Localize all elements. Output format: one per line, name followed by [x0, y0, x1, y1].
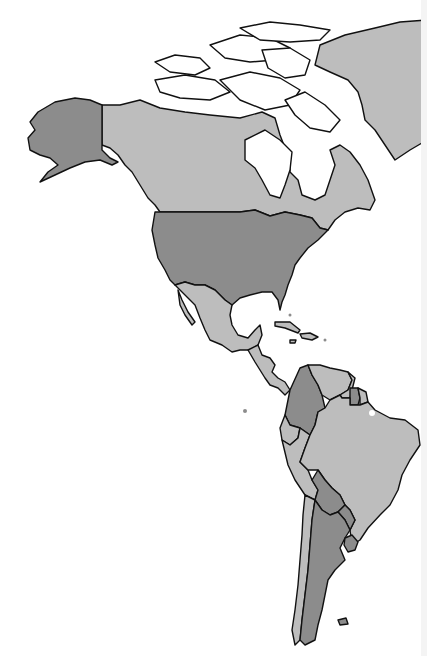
region-greenland: [315, 20, 427, 160]
page-edge: [421, 0, 427, 656]
caribbean-islands: [275, 314, 327, 344]
amazon-delta: [369, 410, 375, 416]
region-central-america: [248, 345, 290, 395]
region-falklands: [338, 618, 348, 625]
americas-map: [0, 0, 427, 656]
region-galapagos: [243, 409, 247, 413]
